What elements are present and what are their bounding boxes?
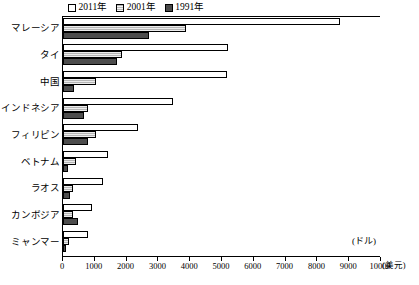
bar (63, 245, 66, 252)
bar (63, 165, 68, 172)
bar (63, 105, 88, 112)
x-axis-tick-label: 2000 (117, 262, 134, 271)
bar (63, 204, 92, 211)
bar (63, 151, 108, 158)
plot-area (62, 16, 381, 256)
legend-entry-2011: 2011年 (68, 3, 107, 13)
y-axis-label: ミャンマー (0, 238, 60, 248)
legend-label-2001: 2001年 (127, 3, 156, 13)
legend-swatch-2011 (68, 4, 76, 12)
x-axis-tick-label: 5000 (213, 262, 230, 271)
bar (63, 51, 122, 58)
bar-group (63, 16, 381, 43)
bar-group (63, 43, 381, 70)
bar-group (63, 149, 381, 176)
bar (63, 231, 88, 238)
y-axis-label: カンボジア (0, 211, 60, 221)
y-axis-category-labels: マレーシアタイ中国インドネシアフィリピンベトナムラオスカンボジアミャンマー (0, 16, 60, 256)
y-axis-label: ラオス (0, 184, 60, 194)
bar (63, 18, 340, 25)
bar (63, 32, 149, 39)
x-axis-tick-label: 7000 (276, 262, 293, 271)
y-axis-label: フィリピン (0, 131, 60, 141)
bar-group (63, 123, 381, 150)
bar (63, 178, 103, 185)
bar-group (63, 229, 381, 256)
y-axis-label: ベトナム (0, 158, 60, 168)
x-axis-unit-japanese: (ドル) (352, 237, 376, 246)
bar (63, 192, 70, 199)
y-axis-label: インドネシア (0, 104, 60, 114)
y-axis-label: 中国 (0, 78, 60, 88)
bar (63, 112, 84, 119)
x-axis-tick-label: 3000 (149, 262, 166, 271)
bar (63, 98, 173, 105)
bar (63, 211, 73, 218)
bar (63, 138, 88, 145)
x-axis-unit-chinese: (美元) (382, 261, 406, 270)
x-axis: 0100020003000400050006000700080009000100… (62, 256, 380, 257)
y-axis-label: マレーシア (0, 24, 60, 34)
legend-entry-1991: 1991年 (165, 3, 205, 13)
x-axis-tick-label: 0 (60, 262, 64, 271)
bar-chart: 2011年 2001年 1991年 マレーシアタイ中国インドネシアフィリピンベト… (0, 0, 419, 285)
bar-group (63, 69, 381, 96)
bar (63, 218, 78, 225)
x-axis-tick-label: 4000 (181, 262, 198, 271)
bar (63, 58, 117, 65)
bar (63, 238, 69, 245)
bar (63, 71, 227, 78)
bar (63, 25, 186, 32)
chart-legend: 2011年 2001年 1991年 (68, 1, 204, 15)
legend-entry-2001: 2001年 (116, 3, 156, 13)
legend-swatch-2001 (116, 4, 124, 12)
y-axis-label: タイ (0, 51, 60, 61)
legend-label-1991: 1991年 (175, 3, 204, 13)
bar (63, 85, 74, 92)
bar (63, 78, 96, 85)
bar-group (63, 96, 381, 123)
x-axis-tick-label: 6000 (244, 262, 261, 271)
bar (63, 44, 228, 51)
x-axis-tick-label: 9000 (340, 262, 357, 271)
bar (63, 185, 73, 192)
bar-group (63, 203, 381, 230)
bar (63, 158, 76, 165)
bar-group (63, 176, 381, 203)
legend-swatch-1991 (165, 4, 173, 12)
bar (63, 124, 138, 131)
bar (63, 131, 96, 138)
x-axis-tick-label: 1000 (85, 262, 102, 271)
legend-label-2011: 2011年 (79, 3, 108, 13)
x-axis-tick-label: 8000 (308, 262, 325, 271)
